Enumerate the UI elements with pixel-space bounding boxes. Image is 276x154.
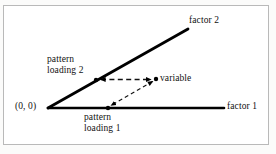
label-pattern-loading-1-line-2: loading 1 [84,123,121,134]
label-pattern-loading-2-line-2: loading 2 [47,65,84,76]
label-pattern-loading-2: pattern loading 2 [47,54,84,76]
label-factor-2: factor 2 [189,15,219,26]
label-variable: variable [160,73,191,84]
label-pattern-loading-1-line-1: pattern [84,112,121,123]
figure-container: (0, 0) factor 2 factor 1 variable patter… [0,0,276,154]
point-pattern-loading-2 [94,78,98,82]
point-pattern-loading-1 [106,106,110,110]
point-variable [154,77,158,81]
label-pattern-loading-1: pattern loading 1 [84,112,121,134]
diagram-canvas [0,0,276,154]
label-origin: (0, 0) [15,101,36,112]
label-factor-1: factor 1 [227,101,257,112]
label-pattern-loading-2-line-1: pattern [47,54,84,65]
projection-line-factor-1 [111,82,153,106]
